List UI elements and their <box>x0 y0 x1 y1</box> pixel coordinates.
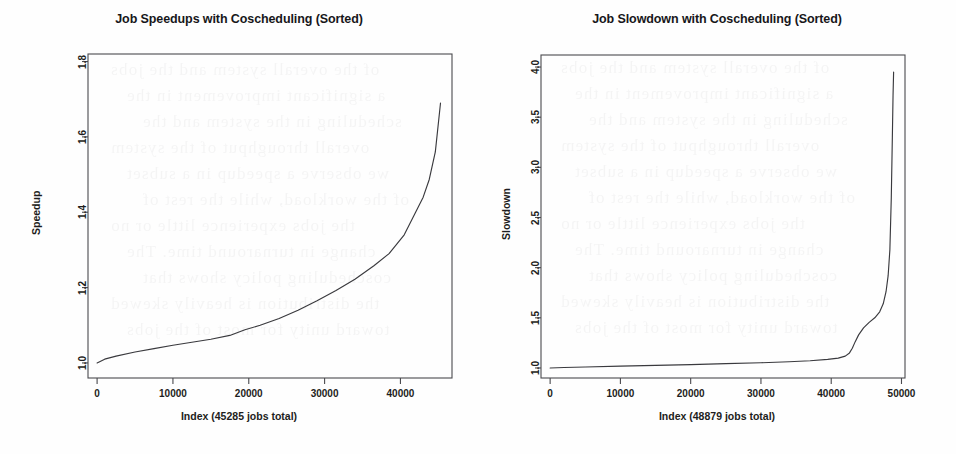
x-tick-label: 30000 <box>747 388 775 399</box>
y-tick-label: 1.6 <box>77 130 88 144</box>
x-tick-label: 40000 <box>387 388 415 399</box>
y-tick-label: 1.4 <box>77 205 88 219</box>
y-axis-title-slowdown: Slowdown <box>500 188 512 240</box>
y-tick-label: 1.5 <box>530 311 541 325</box>
x-tick-label: 20000 <box>677 388 705 399</box>
x-axis-title-slowdown: Index (48879 jobs total) <box>478 410 956 422</box>
y-tick-label: 1.0 <box>530 361 541 375</box>
y-tick-label: 1.0 <box>77 356 88 370</box>
x-tick-label: 20000 <box>235 388 263 399</box>
x-tick-label: 10000 <box>159 388 187 399</box>
x-tick-label: 30000 <box>311 388 339 399</box>
data-line-slowdown <box>550 72 893 368</box>
y-tick-label: 2.5 <box>530 211 541 225</box>
y-tick-label: 4.0 <box>530 60 541 74</box>
data-line-speedup <box>97 103 440 363</box>
plot-frame <box>88 54 452 378</box>
y-tick-label: 1.2 <box>77 281 88 295</box>
x-tick-label: 40000 <box>817 388 845 399</box>
y-tick-label: 1.8 <box>77 55 88 69</box>
plot-frame <box>541 55 905 378</box>
x-tick-label: 10000 <box>606 388 634 399</box>
y-tick-label: 2.0 <box>530 261 541 275</box>
figure-container: of the overall system and the jobsof the… <box>0 0 956 454</box>
chart-panel-slowdown: Job Slowdown with Coscheduling (Sorted) … <box>478 0 956 454</box>
plot-area-slowdown <box>478 0 956 454</box>
y-axis-title-speedup: Speedup <box>30 191 42 235</box>
y-tick-label: 3.0 <box>530 160 541 174</box>
x-tick-label: 50000 <box>888 388 916 399</box>
x-axis-title-speedup: Index (45285 jobs total) <box>0 410 478 422</box>
y-tick-label: 3.5 <box>530 110 541 124</box>
chart-panel-speedup: Job Speedups with Coscheduling (Sorted) … <box>0 0 478 454</box>
x-tick-label: 0 <box>547 388 553 399</box>
x-tick-label: 0 <box>94 388 100 399</box>
plot-area-speedup <box>0 0 478 454</box>
